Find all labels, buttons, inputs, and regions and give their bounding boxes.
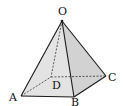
apex-point-o — [61, 20, 64, 23]
label-d: D — [52, 79, 61, 92]
label-b: B — [71, 96, 79, 106]
label-c: C — [108, 71, 116, 84]
label-o: O — [58, 5, 67, 18]
pyramid-diagram: O A B C D — [0, 0, 123, 106]
label-a: A — [8, 91, 18, 104]
pyramid-svg: O A B C D — [0, 0, 123, 106]
